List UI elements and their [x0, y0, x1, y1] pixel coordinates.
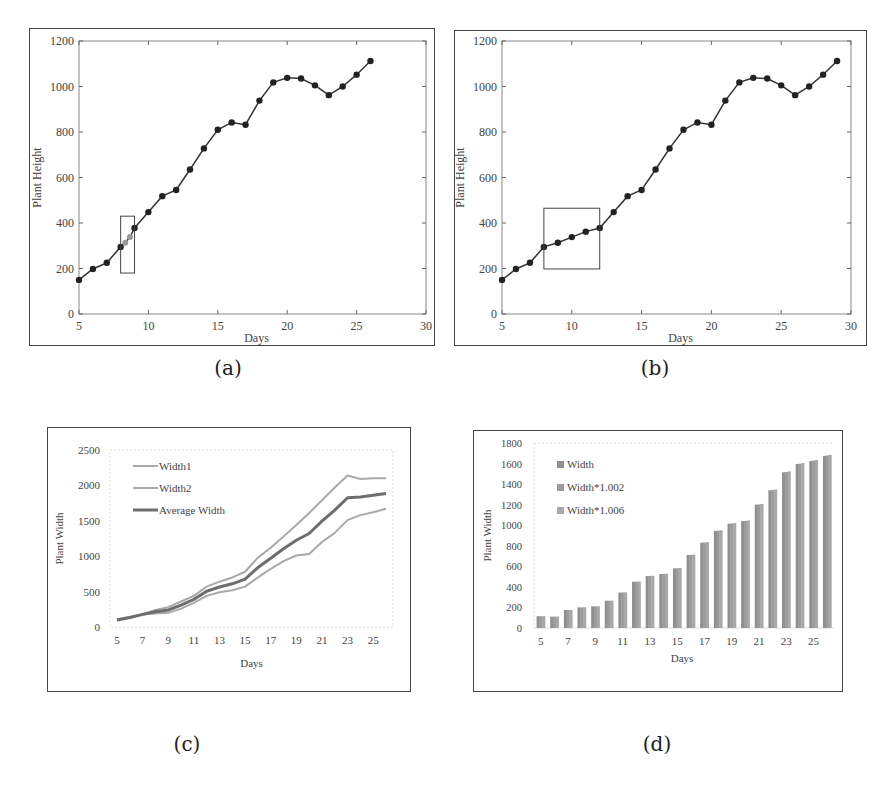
x-tick-label: 19	[726, 635, 738, 647]
data-point	[159, 193, 165, 199]
y-tick-label: 600	[506, 561, 522, 572]
bar	[758, 504, 761, 628]
data-point	[764, 75, 770, 81]
data-point	[834, 58, 840, 64]
x-tick-label: 30	[420, 319, 432, 333]
y-axis-label: Plant Width	[53, 512, 65, 565]
data-point	[666, 145, 672, 151]
data-point	[90, 266, 96, 272]
y-tick-label: 400	[479, 216, 497, 230]
legend-label: Average Width	[159, 504, 226, 516]
line-chart-plant-width: 050010001500200025005791113151719212325D…	[48, 428, 412, 693]
bar	[635, 582, 638, 628]
y-axis-label: Plant Height	[453, 147, 467, 208]
data-point	[270, 79, 276, 85]
legend-swatch	[557, 484, 564, 491]
x-tick-label: 23	[781, 635, 793, 647]
bar-chart-plant-width: 0200400600800100012001400160018005791113…	[474, 431, 844, 693]
bar	[774, 489, 777, 628]
bar	[583, 607, 586, 628]
legend-label: Width	[567, 458, 595, 470]
x-tick-label: 21	[754, 635, 765, 647]
bar	[570, 610, 573, 628]
bar	[646, 576, 649, 628]
y-tick-label: 0	[517, 623, 522, 634]
bar	[782, 472, 785, 628]
data-point	[173, 187, 179, 193]
bar	[679, 568, 682, 628]
x-axis-label: Days	[240, 657, 263, 669]
data-point	[298, 75, 304, 81]
bar	[720, 530, 723, 628]
bar	[624, 592, 627, 628]
data-point	[104, 260, 110, 266]
bar	[747, 520, 750, 628]
x-tick-label: 25	[808, 635, 820, 647]
y-axis-label: Plant Height	[30, 147, 44, 208]
bar	[564, 610, 567, 628]
interpolated-point	[127, 234, 133, 240]
legend-swatch	[557, 461, 564, 468]
caption-a: (a)	[198, 356, 258, 380]
x-tick-label: 19	[291, 634, 303, 646]
bar	[687, 555, 690, 628]
y-tick-label: 2500	[78, 444, 101, 456]
data-point	[792, 92, 798, 98]
bar	[717, 531, 720, 628]
y-tick-label: 0	[68, 307, 74, 321]
bar	[728, 524, 731, 628]
y-tick-label: 1000	[501, 520, 522, 531]
x-tick-label: 7	[140, 634, 146, 646]
legend-swatch	[557, 507, 564, 514]
legend-label: Width*1.002	[567, 481, 624, 493]
x-tick-label: 9	[165, 634, 171, 646]
data-point	[652, 166, 658, 172]
x-tick-label: 21	[316, 634, 327, 646]
data-point	[806, 83, 812, 89]
y-tick-label: 600	[56, 171, 74, 185]
data-point	[638, 187, 644, 193]
data-point	[750, 75, 756, 81]
data-point	[228, 119, 234, 125]
bar	[673, 568, 676, 628]
x-tick-label: 13	[644, 635, 656, 647]
chart-panel-c: 050010001500200025005791113151719212325D…	[47, 427, 411, 692]
caption-b: (b)	[625, 356, 685, 380]
bar	[692, 555, 695, 628]
bar	[537, 616, 540, 628]
legend-label: Width*1.006	[567, 504, 625, 516]
bar	[826, 455, 829, 628]
x-tick-label: 20	[281, 319, 293, 333]
data-point	[513, 266, 519, 272]
data-point	[778, 82, 784, 88]
data-point	[312, 82, 318, 88]
chart-panel-a: 02004006008001000120051015202530DaysPlan…	[29, 28, 435, 346]
bar	[700, 543, 703, 628]
data-point	[367, 58, 373, 64]
data-point	[187, 166, 193, 172]
data-point	[820, 71, 826, 77]
bar	[649, 576, 652, 628]
data-point	[527, 260, 533, 266]
bar	[829, 455, 832, 628]
x-tick-label: 9	[593, 635, 599, 647]
x-tick-label: 15	[672, 635, 684, 647]
x-tick-label: 25	[775, 319, 787, 333]
bar	[659, 574, 662, 628]
bar	[591, 606, 594, 628]
bar	[768, 490, 771, 628]
bar	[539, 616, 542, 628]
bar	[733, 523, 736, 628]
x-tick-label: 17	[699, 635, 711, 647]
bar	[809, 461, 812, 628]
plot-area-frame	[502, 41, 851, 314]
bar	[771, 490, 774, 628]
bar	[799, 464, 802, 628]
bar	[594, 606, 597, 628]
bar	[567, 610, 570, 628]
y-tick-label: 600	[479, 171, 497, 185]
bar	[796, 464, 799, 628]
legend-label: Width2	[159, 482, 192, 494]
bar	[550, 617, 553, 628]
data-point	[145, 209, 151, 215]
